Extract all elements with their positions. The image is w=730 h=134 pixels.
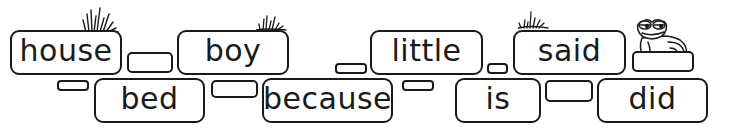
- filler-brick: [127, 52, 173, 73]
- lily-pad-brick: [632, 51, 694, 72]
- word-wall: house boy little said bed because is did: [0, 0, 730, 134]
- filler-brick: [211, 80, 258, 98]
- filler-brick: [57, 80, 89, 91]
- filler-brick: [487, 63, 508, 74]
- grass-icon: [518, 10, 550, 30]
- word-brick-little[interactable]: little: [370, 30, 483, 75]
- word-brick-is[interactable]: is: [455, 78, 541, 123]
- filler-brick: [545, 80, 593, 102]
- filler-brick: [335, 63, 367, 74]
- word-brick-house[interactable]: house: [10, 30, 122, 75]
- word-brick-said[interactable]: said: [513, 30, 626, 75]
- word-brick-boy[interactable]: boy: [177, 30, 289, 75]
- filler-brick: [402, 80, 434, 91]
- word-brick-bed[interactable]: bed: [94, 78, 205, 123]
- word-brick-because[interactable]: because: [262, 78, 393, 123]
- word-brick-did[interactable]: did: [597, 78, 708, 123]
